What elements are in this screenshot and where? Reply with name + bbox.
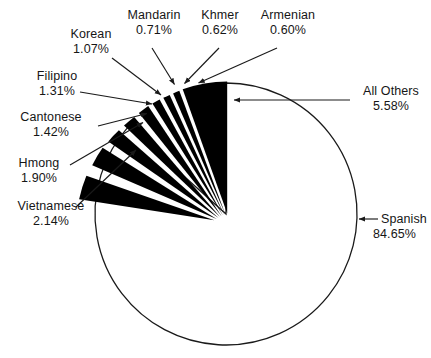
label-hmong: Hmong 1.90% xyxy=(6,156,72,186)
label-korean: Korean 1.07% xyxy=(62,27,120,57)
label-khmer-name: Khmer xyxy=(190,8,250,23)
label-korean-pct: 1.07% xyxy=(62,42,120,57)
label-vietnamese-pct: 2.14% xyxy=(6,214,96,229)
leader-line-filipino xyxy=(80,92,152,104)
label-armenian-name: Armenian xyxy=(252,8,324,23)
label-mandarin-name: Mandarin xyxy=(118,8,190,23)
label-filipino: Filipino 1.31% xyxy=(26,69,88,99)
label-spanish-pct: 84.65% xyxy=(373,227,431,242)
label-korean-name: Korean xyxy=(62,27,120,42)
label-khmer: Khmer 0.62% xyxy=(190,8,250,38)
label-mandarin: Mandarin 0.71% xyxy=(118,8,190,38)
label-all-others: All Others 5.58% xyxy=(355,84,427,114)
label-cantonese-name: Cantonese xyxy=(11,110,91,125)
label-all-others-pct: 5.58% xyxy=(355,99,427,114)
label-filipino-name: Filipino xyxy=(26,69,88,84)
pie-chart: Mandarin 0.71% Khmer 0.62% Armenian 0.60… xyxy=(0,0,431,358)
label-cantonese-pct: 1.42% xyxy=(11,125,91,140)
leader-line-armenian xyxy=(199,48,278,83)
label-armenian-pct: 0.60% xyxy=(252,23,324,38)
label-hmong-name: Hmong xyxy=(6,156,72,171)
label-filipino-pct: 1.31% xyxy=(26,84,88,99)
label-vietnamese: Vietnamese 2.14% xyxy=(6,199,96,229)
leader-line-korean xyxy=(112,58,161,95)
label-armenian: Armenian 0.60% xyxy=(252,8,324,38)
label-spanish-name: Spanish xyxy=(381,212,431,227)
label-hmong-pct: 1.90% xyxy=(6,171,72,186)
label-cantonese: Cantonese 1.42% xyxy=(11,110,91,140)
leader-line-mandarin xyxy=(152,48,175,85)
label-spanish: Spanish 84.65% xyxy=(381,212,431,242)
label-all-others-name: All Others xyxy=(355,84,427,99)
label-khmer-pct: 0.62% xyxy=(190,23,250,38)
label-vietnamese-name: Vietnamese xyxy=(6,199,96,214)
label-mandarin-pct: 0.71% xyxy=(118,23,190,38)
leader-line-khmer xyxy=(185,48,220,84)
